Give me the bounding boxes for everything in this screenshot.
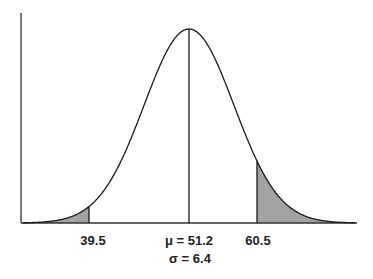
right-tail-shaded-region bbox=[257, 161, 355, 223]
left-cutoff-label: 39.5 bbox=[80, 234, 105, 248]
right-cutoff-label: 60.5 bbox=[245, 234, 270, 248]
sigma-label: σ = 6.4 bbox=[169, 252, 211, 266]
mean-label: μ = 51.2 bbox=[165, 234, 213, 248]
